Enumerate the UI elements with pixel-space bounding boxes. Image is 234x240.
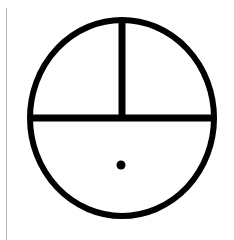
circle-cross-symbol-icon [0, 0, 234, 240]
center-dot [117, 161, 126, 170]
